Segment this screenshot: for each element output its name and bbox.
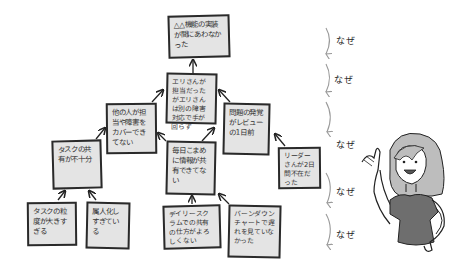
- why-box-level3-middle: 毎日こまめに情報が共有できてない: [165, 140, 216, 195]
- why-box-level2-right: 問題の発覚がレビューの1日前: [222, 103, 270, 156]
- why-box-level2-left: 他の人が担当や障害をカバーできてない: [106, 103, 158, 155]
- woman-pointing-illustration: [360, 130, 469, 274]
- why-box-level1: エリさんが担当だったがエリさんは別の障害対応で手が回らず: [165, 72, 217, 124]
- why-box-level4-4: バーンダウンチャートで遅れを見ていなかった: [227, 204, 281, 258]
- why-label-5: なぜ: [336, 228, 355, 241]
- why-label-4: なぜ: [336, 185, 355, 198]
- why-label-3: なぜ: [336, 138, 355, 151]
- why-box-level4-3: デイリースクラムでの共有の仕方がよろしくない: [162, 204, 221, 250]
- root-cause-box: △△機能の実装が間にあわなかった: [167, 14, 230, 59]
- why-label-2: なぜ: [334, 73, 353, 86]
- why-why-diagram: △△機能の実装が間にあわなかった エリさんが担当だったがエリさんは別の障害対応で…: [0, 0, 469, 274]
- why-box-level4-1: タスクの粒度が大きすぎる: [27, 202, 77, 247]
- why-box-level4-2: 属人化しすぎている: [86, 202, 131, 250]
- why-box-level3-left: タスクの共有が不十分: [51, 139, 102, 189]
- why-label-1: なぜ: [336, 34, 355, 47]
- why-box-level3-right: リーダーさんが2日間不在だった: [278, 147, 321, 189]
